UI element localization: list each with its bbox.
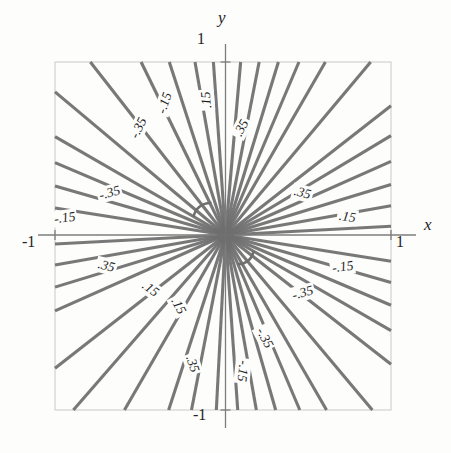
y-tick-positive-one: 1: [197, 30, 205, 48]
contour-level-label: .15: [336, 208, 359, 227]
x-axis-label: x: [424, 215, 432, 235]
x-tick-positive-one: 1: [396, 233, 404, 251]
contour-plot-canvas: [0, 0, 451, 453]
contour-level-label: .15: [198, 89, 216, 111]
y-axis-label: y: [218, 8, 226, 28]
x-tick-negative-one: -1: [22, 233, 35, 251]
contour-level-label: -.15: [233, 358, 252, 385]
y-tick-negative-one: -1: [193, 406, 206, 424]
contour-plot-figure: y x 1 -1 1 -1 -.35-.15.15.35-.35-.15.35.…: [0, 0, 451, 453]
